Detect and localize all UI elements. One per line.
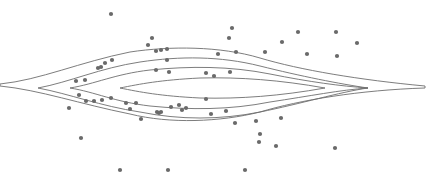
data-point: [257, 140, 261, 144]
data-point: [204, 97, 208, 101]
data-point: [274, 144, 278, 148]
data-point: [134, 101, 138, 105]
data-point: [169, 105, 173, 109]
data-point: [258, 132, 262, 136]
data-point: [128, 107, 132, 111]
data-point: [280, 40, 284, 44]
data-point: [177, 103, 181, 107]
data-point: [305, 52, 309, 56]
data-point: [209, 112, 213, 116]
data-point: [159, 110, 163, 114]
density-contour-plot: [0, 0, 430, 175]
data-point: [154, 68, 158, 72]
data-point: [99, 65, 103, 69]
data-point: [227, 36, 231, 40]
data-point: [254, 119, 258, 123]
data-point: [230, 26, 234, 30]
data-point: [243, 168, 247, 172]
data-point: [333, 146, 337, 150]
scatter-points: [67, 12, 359, 172]
data-point: [109, 12, 113, 16]
data-point: [146, 43, 150, 47]
contour-level-4: [120, 78, 325, 98]
data-point: [110, 58, 114, 62]
contour-fills: [0, 48, 425, 121]
data-point: [279, 116, 283, 120]
data-point: [139, 117, 143, 121]
data-point: [165, 47, 169, 51]
data-point: [124, 101, 128, 105]
data-point: [184, 106, 188, 110]
data-point: [212, 74, 216, 78]
data-point: [355, 41, 359, 45]
data-point: [154, 49, 158, 53]
data-point: [233, 121, 237, 125]
data-point: [335, 54, 339, 58]
data-point: [165, 58, 169, 62]
data-point: [216, 52, 220, 56]
data-point: [166, 168, 170, 172]
data-point: [180, 108, 184, 112]
data-point: [74, 79, 78, 83]
data-point: [296, 30, 300, 34]
data-point: [67, 106, 71, 110]
data-point: [84, 99, 88, 103]
data-point: [224, 109, 228, 113]
data-point: [167, 70, 171, 74]
data-point: [100, 98, 104, 102]
data-point: [334, 30, 338, 34]
data-point: [83, 78, 87, 82]
data-point: [79, 136, 83, 140]
data-point: [77, 93, 81, 97]
data-point: [118, 168, 122, 172]
data-point: [234, 50, 238, 54]
data-point: [92, 99, 96, 103]
data-point: [109, 96, 113, 100]
data-point: [150, 36, 154, 40]
data-point: [228, 70, 232, 74]
data-point: [159, 48, 163, 52]
data-point: [204, 71, 208, 75]
data-point: [103, 61, 107, 65]
data-point: [263, 50, 267, 54]
